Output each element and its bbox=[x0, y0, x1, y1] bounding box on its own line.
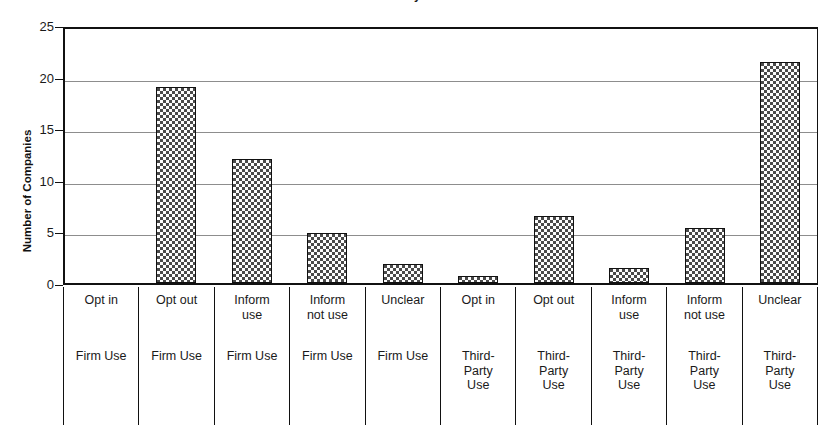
x-label-policy: Opt in bbox=[85, 293, 118, 308]
y-tick-mark bbox=[55, 285, 63, 286]
bar-series bbox=[63, 27, 818, 283]
bar bbox=[609, 268, 649, 283]
y-tick-mark bbox=[55, 79, 63, 80]
x-axis-label-table: Opt inFirm UseOpt outFirm UseInform useF… bbox=[63, 287, 818, 425]
x-label-use-row: Third- Party Use bbox=[441, 337, 515, 425]
y-tick-label: 5 bbox=[14, 226, 54, 239]
chart-root: Privacy Data Number of Companies 0510152… bbox=[0, 0, 828, 441]
x-label-use: Firm Use bbox=[227, 349, 278, 364]
x-axis-label-cell: Opt inFirm Use bbox=[63, 287, 138, 425]
y-tick-mark bbox=[55, 233, 63, 234]
bar-slot bbox=[214, 27, 290, 283]
x-axis-label-cell: Opt outThird- Party Use bbox=[515, 287, 590, 425]
bar bbox=[156, 87, 196, 283]
chart-title: Privacy Data bbox=[0, 0, 828, 2]
y-tick-mark bbox=[55, 27, 63, 28]
x-label-policy: Unclear bbox=[381, 293, 424, 308]
bar bbox=[458, 276, 498, 283]
x-label-use-row: Firm Use bbox=[366, 337, 440, 425]
x-label-use: Third- Party Use bbox=[764, 349, 797, 393]
y-tick-mark bbox=[55, 182, 63, 183]
bar-slot bbox=[743, 27, 819, 283]
chart-title-clipped: Privacy Data bbox=[0, 0, 828, 4]
x-axis-label-cell: Inform useThird- Party Use bbox=[591, 287, 666, 425]
x-label-use: Third- Party Use bbox=[688, 349, 721, 393]
x-label-use-row: Third- Party Use bbox=[592, 337, 666, 425]
bar-slot bbox=[365, 27, 441, 283]
x-label-use: Firm Use bbox=[76, 349, 127, 364]
x-label-policy: Opt out bbox=[156, 293, 197, 308]
x-label-policy-row: Opt in bbox=[441, 287, 515, 337]
x-axis-label-cell: Inform not useThird- Party Use bbox=[666, 287, 741, 425]
bar-slot bbox=[63, 27, 139, 283]
x-axis-label-cell: Inform useFirm Use bbox=[214, 287, 289, 425]
x-label-policy: Inform use bbox=[234, 293, 269, 322]
bar bbox=[232, 159, 272, 283]
y-tick-label: 20 bbox=[14, 72, 54, 85]
bar bbox=[534, 216, 574, 283]
bar-slot bbox=[667, 27, 743, 283]
x-label-use-row: Third- Party Use bbox=[516, 337, 590, 425]
x-label-policy: Opt in bbox=[462, 293, 495, 308]
y-tick-label: 25 bbox=[14, 20, 54, 33]
x-axis-label-cell: Opt outFirm Use bbox=[138, 287, 213, 425]
x-label-use-row: Firm Use bbox=[215, 337, 289, 425]
x-label-policy: Inform not use bbox=[684, 293, 725, 322]
x-label-policy-row: Unclear bbox=[366, 287, 440, 337]
x-axis-label-cell: Inform not useFirm Use bbox=[289, 287, 364, 425]
y-tick-label: 0 bbox=[14, 278, 54, 291]
x-label-policy-row: Inform not use bbox=[667, 287, 741, 337]
bar-slot bbox=[139, 27, 215, 283]
x-axis-label-cell: UnclearThird- Party Use bbox=[742, 287, 818, 425]
x-axis-label-cell: UnclearFirm Use bbox=[365, 287, 440, 425]
x-label-use: Third- Party Use bbox=[613, 349, 646, 393]
x-label-use: Firm Use bbox=[377, 349, 428, 364]
bar-slot bbox=[290, 27, 366, 283]
x-label-policy-row: Opt in bbox=[64, 287, 138, 337]
bar bbox=[383, 264, 423, 283]
bar bbox=[685, 228, 725, 283]
x-label-policy-row: Inform use bbox=[215, 287, 289, 337]
x-label-use: Firm Use bbox=[151, 349, 202, 364]
bar bbox=[760, 62, 800, 283]
x-label-policy-row: Opt out bbox=[139, 287, 213, 337]
x-label-policy-row: Inform use bbox=[592, 287, 666, 337]
bar-slot bbox=[516, 27, 592, 283]
y-tick-label: 15 bbox=[14, 123, 54, 136]
x-label-policy: Unclear bbox=[758, 293, 801, 308]
x-label-policy-row: Unclear bbox=[743, 287, 817, 337]
x-label-use-row: Firm Use bbox=[139, 337, 213, 425]
x-label-use: Third- Party Use bbox=[462, 349, 495, 393]
y-tick-label: 10 bbox=[14, 175, 54, 188]
x-label-use-row: Firm Use bbox=[64, 337, 138, 425]
bar-slot bbox=[592, 27, 668, 283]
x-label-policy-row: Inform not use bbox=[290, 287, 364, 337]
y-tick-mark bbox=[55, 130, 63, 131]
x-label-use-row: Firm Use bbox=[290, 337, 364, 425]
x-label-use: Third- Party Use bbox=[537, 349, 570, 393]
x-axis-label-cell: Opt inThird- Party Use bbox=[440, 287, 515, 425]
x-label-use-row: Third- Party Use bbox=[667, 337, 741, 425]
x-label-policy: Inform not use bbox=[307, 293, 348, 322]
x-label-use-row: Third- Party Use bbox=[743, 337, 817, 425]
x-label-policy-row: Opt out bbox=[516, 287, 590, 337]
x-label-use: Firm Use bbox=[302, 349, 353, 364]
x-label-policy: Inform use bbox=[611, 293, 646, 322]
x-label-policy: Opt out bbox=[533, 293, 574, 308]
bar bbox=[307, 233, 347, 283]
bar-slot bbox=[441, 27, 517, 283]
